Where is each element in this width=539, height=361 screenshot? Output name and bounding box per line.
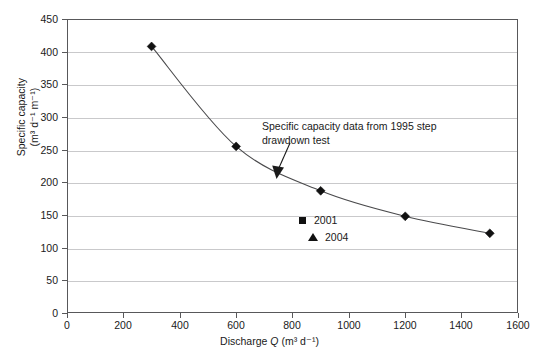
x-tick-label: 0 — [47, 320, 87, 331]
y-tick-mark — [62, 117, 67, 118]
x-tick-mark — [67, 313, 68, 318]
gridline — [68, 249, 517, 250]
x-tick-label: 600 — [216, 320, 256, 331]
chart-figure: 450 400 350 300 250 200 150 100 50 0 0 2… — [0, 0, 539, 361]
legend-label: 2001 — [314, 214, 337, 226]
square-marker-icon — [296, 214, 308, 226]
x-tick-label: 200 — [103, 320, 143, 331]
legend-label: 2004 — [325, 231, 348, 243]
gridline — [68, 85, 517, 86]
annotation-text: Specific capacity data from 1995 step dr… — [262, 119, 510, 147]
x-tick-mark — [405, 313, 406, 318]
y-tick-label: 50 — [18, 275, 58, 286]
x-axis-title: Discharge Q (m³ d⁻¹) — [0, 335, 539, 347]
plot-area — [67, 19, 518, 313]
x-tick-label: 1400 — [441, 320, 481, 331]
x-tick-mark — [349, 313, 350, 318]
y-axis-title-line-2: (m³ d⁻¹ m⁻¹) — [28, 47, 41, 187]
x-axis-title-units: (m³ d⁻¹) — [278, 335, 318, 347]
y-tick-mark — [62, 52, 67, 53]
x-tick-label: 1200 — [385, 320, 425, 331]
x-tick-label: 800 — [272, 320, 312, 331]
y-tick-label: 0 — [18, 308, 58, 319]
x-tick-mark — [292, 313, 293, 318]
y-tick-label: 150 — [18, 210, 58, 221]
annotation-line-2: drawdown test — [262, 133, 510, 147]
y-tick-mark — [62, 182, 67, 183]
triangle-marker-icon — [307, 231, 319, 243]
chart-legend: 2001 2004 — [296, 211, 348, 245]
x-tick-mark — [461, 313, 462, 318]
x-tick-label: 1600 — [498, 320, 538, 331]
gridline — [68, 183, 517, 184]
x-tick-mark — [518, 313, 519, 318]
y-tick-mark — [62, 150, 67, 151]
x-tick-mark — [236, 313, 237, 318]
x-tick-label: 1000 — [329, 320, 369, 331]
y-axis-title: Specific capacity (m³ d⁻¹ m⁻¹) — [15, 47, 41, 187]
y-tick-mark — [62, 248, 67, 249]
y-tick-label: 100 — [18, 243, 58, 254]
y-axis-title-line-1: Specific capacity — [15, 47, 28, 187]
x-tick-mark — [180, 313, 181, 318]
gridline — [68, 52, 517, 53]
legend-item-2001[interactable]: 2001 — [296, 211, 348, 228]
y-tick-mark — [62, 215, 67, 216]
gridline — [68, 216, 517, 217]
gridline — [68, 151, 517, 152]
y-tick-mark — [62, 84, 67, 85]
x-tick-mark — [123, 313, 124, 318]
y-tick-mark — [62, 280, 67, 281]
legend-item-2004[interactable]: 2004 — [296, 228, 348, 245]
gridline — [68, 281, 517, 282]
y-tick-label: 450 — [18, 14, 58, 25]
x-tick-label: 400 — [160, 320, 200, 331]
annotation-line-1: Specific capacity data from 1995 step — [262, 119, 510, 133]
x-axis-title-prefix: Discharge — [220, 335, 270, 347]
y-tick-mark — [62, 19, 67, 20]
